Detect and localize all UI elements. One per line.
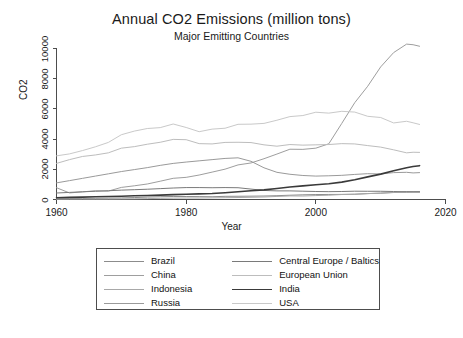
legend-item[interactable]: Indonesia <box>97 282 225 296</box>
y-tick-label: 8000 <box>39 68 50 89</box>
y-tick-label: 10000 <box>39 35 50 61</box>
legend-label: Russia <box>151 298 180 308</box>
y-tick-label: 2000 <box>39 159 50 180</box>
legend-line-swatch <box>232 303 272 304</box>
series-line-european-union <box>57 139 420 163</box>
legend-label: Brazil <box>151 256 175 266</box>
legend-item[interactable]: Brazil <box>97 254 225 268</box>
chart-legend: BrazilCentral Europe / BalticsChinaEurop… <box>96 248 380 310</box>
chart-page: Annual CO2 Emissions (million tons) Majo… <box>0 0 463 338</box>
legend-line-swatch <box>104 261 144 262</box>
legend-item[interactable]: European Union <box>225 268 379 282</box>
legend-item[interactable]: USA <box>225 296 379 310</box>
y-tick-label: 4000 <box>39 129 50 150</box>
legend-label: Central Europe / Baltics <box>279 256 379 266</box>
series-line-usa <box>57 111 420 156</box>
x-tick-label: 2000 <box>291 207 341 218</box>
legend-line-swatch <box>104 303 144 304</box>
legend-item[interactable]: Central Europe / Baltics <box>225 254 379 268</box>
x-tick-label: 2020 <box>421 207 463 218</box>
legend-label: India <box>279 284 300 294</box>
y-axis-title: CO2 <box>18 79 29 100</box>
x-tick-label: 1980 <box>161 207 211 218</box>
legend-label: China <box>151 270 176 280</box>
legend-line-swatch <box>104 289 144 290</box>
legend-label: European Union <box>279 270 348 280</box>
series-line-india <box>57 166 420 198</box>
y-tick-label: 0 <box>39 197 50 202</box>
x-tick-label: 1960 <box>32 207 82 218</box>
x-axis-title: Year <box>0 221 463 232</box>
legend-item[interactable]: India <box>225 282 379 296</box>
legend-line-swatch <box>232 289 272 290</box>
legend-item[interactable]: Russia <box>97 296 225 310</box>
legend-line-swatch <box>232 275 272 276</box>
legend-line-swatch <box>104 275 144 276</box>
legend-label: Indonesia <box>151 284 192 294</box>
series-line-russia <box>57 158 420 183</box>
legend-line-swatch <box>232 261 272 262</box>
legend-item[interactable]: China <box>97 268 225 282</box>
series-line-china <box>57 44 420 193</box>
legend-label: USA <box>279 298 299 308</box>
y-tick-label: 6000 <box>39 98 50 119</box>
